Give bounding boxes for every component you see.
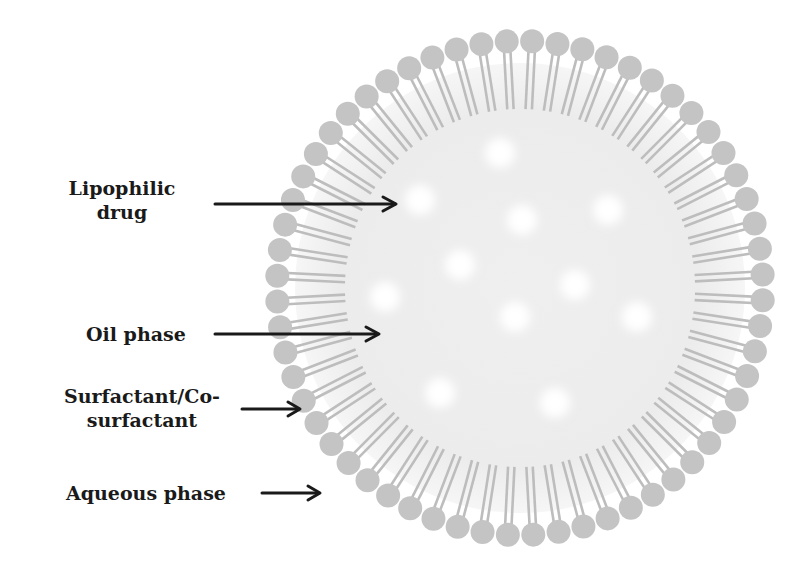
surfactant-head — [471, 520, 495, 544]
surfactant-head — [375, 69, 399, 93]
surfactant-head — [618, 56, 642, 80]
surfactant-head — [421, 507, 445, 531]
surfactant-head — [545, 32, 569, 56]
label-aqueous-phase: Aqueous phase — [66, 481, 226, 505]
surfactant-head — [336, 102, 360, 126]
surfactant-head — [305, 411, 329, 435]
surfactant-head — [265, 264, 289, 288]
surfactant-head — [748, 237, 772, 261]
surfactant-head — [445, 38, 469, 62]
surfactant-head — [641, 483, 665, 507]
surfactant-head — [496, 523, 520, 547]
surfactant-head — [570, 37, 594, 61]
surfactant-head — [268, 238, 292, 262]
surfactant-head — [265, 290, 289, 314]
drug-droplet — [445, 250, 475, 280]
surfactant-head — [660, 84, 684, 108]
surfactant-head — [712, 410, 736, 434]
label-line: Aqueous phase — [66, 481, 226, 505]
surfactant-head — [304, 142, 328, 166]
surfactant-head — [743, 339, 767, 363]
surfactant-head — [748, 314, 772, 338]
drug-droplet — [405, 185, 435, 215]
surfactant-head — [679, 101, 703, 125]
surfactant-head — [735, 187, 759, 211]
drug-droplet — [507, 205, 537, 235]
label-line: drug — [66, 200, 178, 224]
surfactant-head — [547, 520, 571, 544]
drug-droplet — [370, 282, 400, 312]
surfactant-head — [661, 468, 685, 492]
surfactant-head — [724, 163, 748, 187]
surfactant-head — [281, 188, 305, 212]
surfactant-head — [520, 29, 544, 53]
surfactant-head — [398, 496, 422, 520]
surfactant-head — [273, 213, 297, 237]
surfactant-head — [711, 141, 735, 165]
label-line: surfactant — [42, 408, 242, 432]
surfactant-head — [320, 432, 344, 456]
surfactant-head — [696, 120, 720, 144]
surfactant-head — [356, 468, 380, 492]
surfactant-head — [469, 32, 493, 56]
arrow-surfactant — [242, 402, 300, 416]
surfactant-head — [319, 121, 343, 145]
surfactant-head — [273, 340, 297, 364]
drug-droplet — [540, 388, 570, 418]
surfactant-head — [337, 451, 361, 475]
surfactant-head — [596, 506, 620, 530]
surfactant-head — [680, 450, 704, 474]
surfactant-head — [619, 496, 643, 520]
surfactant-head — [595, 45, 619, 69]
surfactant-head — [751, 288, 775, 312]
label-line: Surfactant/Co- — [42, 384, 242, 408]
surfactant-head — [397, 56, 421, 80]
label-surfactant: Surfactant/Co- surfactant — [42, 384, 242, 432]
drug-droplet — [560, 270, 590, 300]
label-line: Oil phase — [86, 322, 186, 346]
surfactant-head — [355, 84, 379, 108]
surfactant-head — [420, 46, 444, 70]
surfactant-head — [751, 262, 775, 286]
surfactant-head — [446, 515, 470, 539]
drug-droplet — [593, 195, 623, 225]
surfactant-head — [521, 523, 545, 547]
drug-droplet — [425, 378, 455, 408]
arrow-aqueous-phase — [262, 486, 320, 500]
surfactant-head — [743, 212, 767, 236]
label-lipophilic-drug: Lipophilic drug — [66, 176, 178, 224]
surfactant-head — [735, 364, 759, 388]
surfactant-head — [495, 29, 519, 53]
surfactant-head — [571, 514, 595, 538]
label-oil-phase: Oil phase — [86, 322, 186, 346]
surfactant-head — [268, 315, 292, 339]
surfactant-head — [697, 431, 721, 455]
drug-droplet — [485, 138, 515, 168]
surfactant-head — [725, 388, 749, 412]
drug-droplet — [622, 302, 652, 332]
surfactant-head — [376, 483, 400, 507]
drug-droplet — [500, 302, 530, 332]
surfactant-head — [281, 365, 305, 389]
surfactant-head — [640, 69, 664, 93]
label-line: Lipophilic — [66, 176, 178, 200]
surfactant-head — [291, 164, 315, 188]
